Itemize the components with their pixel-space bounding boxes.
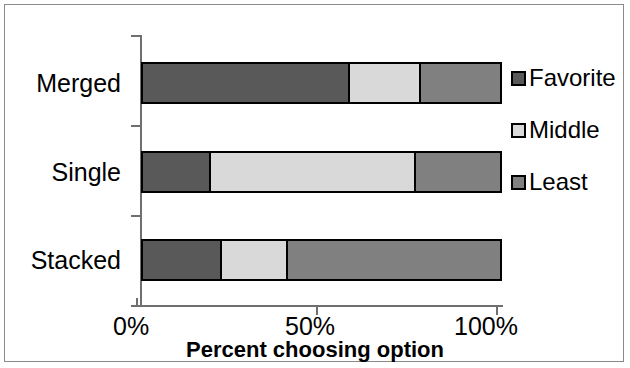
category-label-merged: Merged xyxy=(36,71,121,96)
bar-single xyxy=(141,151,502,193)
bar-segment-merged-middle xyxy=(348,64,421,102)
legend-item-least: Least xyxy=(511,169,630,195)
legend-label-middle: Middle xyxy=(529,118,600,142)
value-axis-line xyxy=(140,305,503,307)
bar-segment-stacked-middle xyxy=(220,241,288,279)
bar-segment-single-least xyxy=(416,153,500,191)
category-axis-tick xyxy=(131,125,141,127)
x-axis-tick-0 xyxy=(136,298,138,307)
x-axis-title: Percent choosing option xyxy=(0,338,630,362)
legend-item-favorite: Favorite xyxy=(511,65,630,91)
bar-segment-merged-favorite xyxy=(143,64,348,102)
category-label-single: Single xyxy=(52,160,122,185)
legend-item-middle: Middle xyxy=(511,117,630,143)
bar-segment-single-middle xyxy=(209,153,416,191)
legend-label-least: Least xyxy=(529,170,588,194)
bar-stacked xyxy=(141,239,502,281)
chart-frame: Merged Single Stacked 0% 50% 100% Favori… xyxy=(4,4,624,362)
bar-segment-single-favorite xyxy=(143,153,209,191)
bar-segment-stacked-favorite xyxy=(143,241,220,279)
legend-label-favorite: Favorite xyxy=(529,66,616,90)
x-tick-label-100: 100% xyxy=(454,313,518,339)
category-label-stacked: Stacked xyxy=(31,248,121,273)
bar-segment-merged-least xyxy=(421,64,500,102)
legend-swatch-least-icon xyxy=(511,175,526,190)
x-tick-label-50: 50% xyxy=(285,313,335,339)
legend-swatch-favorite-icon xyxy=(511,71,526,86)
bar-segment-stacked-least xyxy=(288,241,500,279)
legend-swatch-middle-icon xyxy=(511,123,526,138)
chart-legend: Favorite Middle Least xyxy=(511,65,630,221)
category-axis-tick xyxy=(131,35,141,37)
category-axis-tick xyxy=(131,215,141,217)
bar-merged xyxy=(141,62,502,104)
x-tick-label-0: 0% xyxy=(113,313,149,339)
